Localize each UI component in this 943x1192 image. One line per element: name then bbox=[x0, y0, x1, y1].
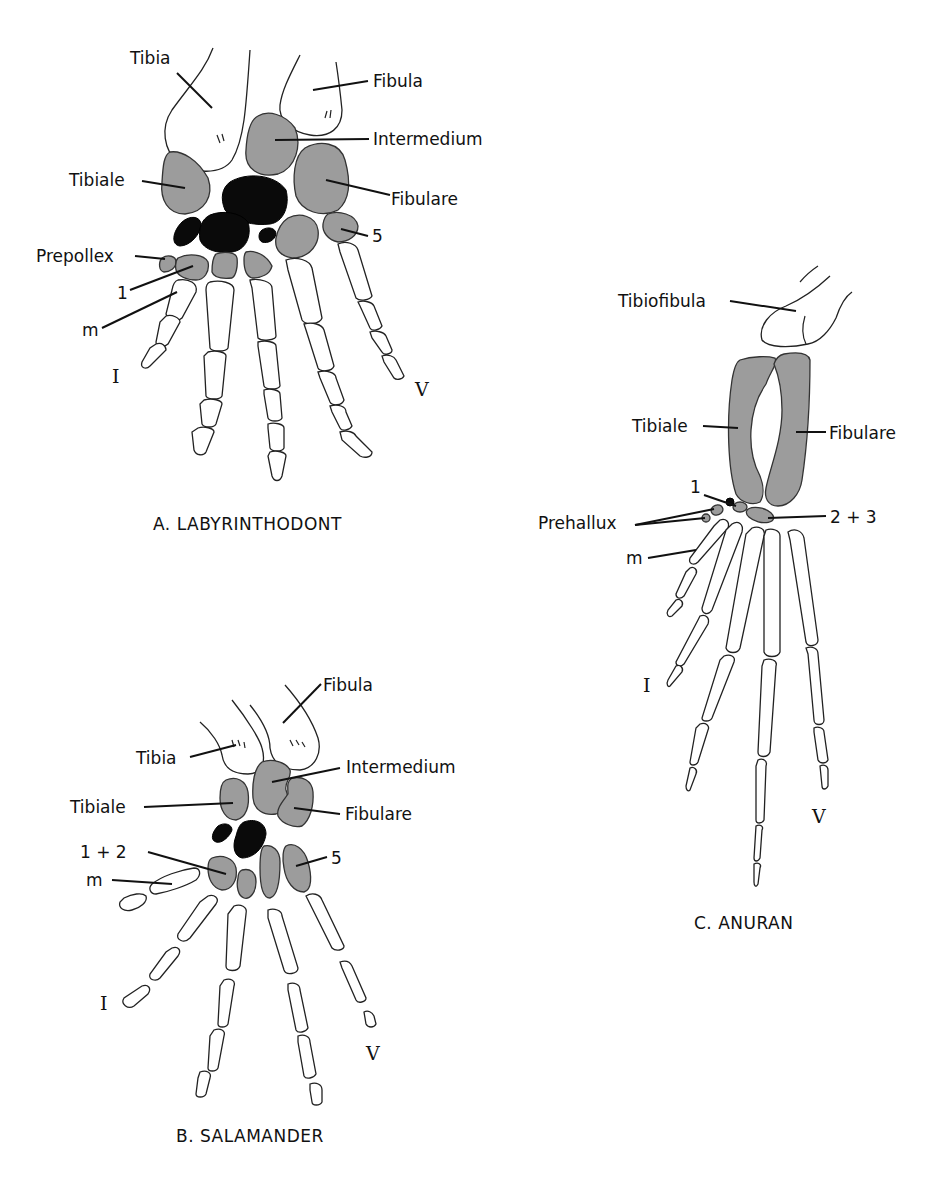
distal-tarsal-4 bbox=[260, 846, 280, 898]
leader-prehallux-b bbox=[635, 518, 705, 525]
label-prepollex: Prepollex bbox=[36, 248, 114, 265]
label-fibulare: Fibulare bbox=[345, 806, 412, 823]
label-digit-I: I bbox=[100, 994, 108, 1013]
label-tibiale: Tibiale bbox=[632, 418, 688, 435]
tibiale-bone bbox=[220, 779, 249, 821]
figure-drawing bbox=[0, 0, 943, 1192]
centrale-left bbox=[212, 824, 232, 842]
label-tibiofibula: Tibiofibula bbox=[618, 293, 706, 310]
digit-V bbox=[788, 530, 828, 789]
label-digit-I: I bbox=[643, 676, 651, 695]
labyrinthodont-drawing bbox=[102, 48, 404, 481]
label-fibula: Fibula bbox=[373, 73, 423, 90]
tibiofibula-bone bbox=[761, 276, 852, 347]
distal-tarsal-5 bbox=[323, 213, 358, 243]
label-fibulare: Fibulare bbox=[829, 425, 896, 442]
distal-tarsal-3 bbox=[237, 870, 256, 899]
label-fibula: Fibula bbox=[323, 677, 373, 694]
label-prehallux: Prehallux bbox=[538, 515, 617, 532]
digit-III bbox=[250, 279, 286, 480]
label-tarsal1: 1 bbox=[690, 479, 701, 496]
anuran-drawing bbox=[635, 266, 852, 886]
label-digit-I: I bbox=[112, 367, 120, 386]
digit-I bbox=[142, 280, 197, 368]
centrale-middle bbox=[199, 212, 249, 252]
label-intermedium: Intermedium bbox=[373, 131, 482, 148]
label-metatarsal: m bbox=[86, 872, 103, 889]
leader-metatarsal bbox=[648, 550, 696, 558]
label-tibiale: Tibiale bbox=[69, 172, 125, 189]
digit-II bbox=[123, 895, 217, 1007]
label-tibiale: Tibiale bbox=[70, 799, 126, 816]
label-tibia: Tibia bbox=[130, 50, 171, 67]
label-intermedium: Intermedium bbox=[346, 759, 455, 776]
caption-salamander: B. SALAMANDER bbox=[176, 1128, 324, 1145]
intermedium-bone bbox=[246, 113, 298, 175]
caption-anuran: C. ANURAN bbox=[694, 915, 793, 932]
digit-III bbox=[196, 905, 246, 1097]
leader-tarsal23 bbox=[768, 516, 826, 518]
digit-IV bbox=[268, 909, 322, 1105]
label-digit-V: V bbox=[366, 1044, 380, 1063]
distal-tarsal-2 bbox=[212, 252, 237, 278]
label-digit-V: V bbox=[415, 380, 429, 399]
digit-V bbox=[306, 894, 376, 1027]
centrale-small bbox=[259, 228, 276, 243]
digit-I bbox=[120, 868, 200, 911]
label-digit-V: V bbox=[812, 807, 826, 826]
digit-V bbox=[338, 242, 404, 379]
label-tibia: Tibia bbox=[136, 750, 177, 767]
centrale-left bbox=[174, 217, 201, 246]
leader-prepollex bbox=[135, 256, 165, 259]
distal-tarsal-5 bbox=[283, 845, 311, 892]
label-metatarsal: m bbox=[626, 550, 643, 567]
label-tarsal1: 1 bbox=[117, 285, 128, 302]
distal-tarsal-3 bbox=[244, 252, 272, 278]
digit-IV bbox=[754, 529, 780, 886]
distal-tarsal-1 bbox=[176, 255, 209, 280]
digit-II bbox=[192, 281, 234, 455]
leader-intermedium bbox=[275, 139, 369, 140]
label-tarsal12: 1 + 2 bbox=[80, 844, 127, 861]
label-tarsal5: 5 bbox=[331, 850, 342, 867]
tarsal-1-bone bbox=[733, 502, 747, 512]
label-tarsal23: 2 + 3 bbox=[830, 509, 877, 526]
fibulare-bone bbox=[766, 353, 811, 506]
tarsal-23-bone bbox=[745, 505, 776, 526]
distal-tarsal-4 bbox=[276, 215, 319, 258]
leader-tibiale bbox=[144, 803, 233, 807]
amphibian-hindfoot-figure: Tibia Fibula Intermedium Tibiale Fibular… bbox=[0, 0, 943, 1192]
label-fibulare: Fibulare bbox=[391, 191, 458, 208]
label-tarsal5: 5 bbox=[372, 228, 383, 245]
fibulare-bone bbox=[294, 144, 349, 214]
label-metatarsal: m bbox=[82, 322, 99, 339]
caption-labyrinthodont: A. LABYRINTHODONT bbox=[153, 516, 342, 533]
